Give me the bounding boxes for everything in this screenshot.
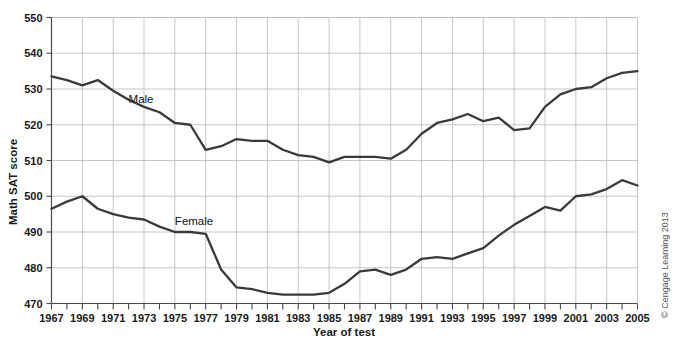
x-axis-tick-label: 1967 (39, 312, 63, 324)
y-axis-tick-label: 550 (24, 12, 42, 24)
x-axis-tick-label: 1983 (286, 312, 310, 324)
x-axis-tick-label: 1975 (163, 312, 187, 324)
math-sat-score-line-chart: 470480490500510520530540550 196719691971… (0, 0, 679, 345)
y-axis-tick-label: 520 (24, 119, 42, 131)
y-axis-tick-label: 540 (24, 47, 42, 59)
x-axis-tick-label: 2001 (564, 312, 588, 324)
x-axis-tick-label: 1979 (224, 312, 248, 324)
x-axis-tick-label: 1987 (348, 312, 372, 324)
y-axis-tick-label: 480 (24, 262, 42, 274)
chart-background (0, 0, 679, 345)
y-axis-tick-label: 530 (24, 83, 42, 95)
x-axis-tick-label: 1993 (440, 312, 464, 324)
x-axis-tick-label: 1981 (255, 312, 279, 324)
x-axis-tick-label: 1991 (409, 312, 433, 324)
x-axis-tick-label: 1977 (193, 312, 217, 324)
y-axis-tick-labels: 470480490500510520530540550 (24, 12, 42, 310)
x-axis-tick-label: 1973 (132, 312, 156, 324)
y-axis-tick-label: 470 (24, 298, 42, 310)
series-label-female: Female (175, 215, 213, 227)
x-axis-tick-label: 1995 (471, 312, 495, 324)
x-axis-tick-label: 1985 (317, 312, 341, 324)
x-axis-tick-label: 1969 (70, 312, 94, 324)
x-axis-tick-label: 1989 (379, 312, 403, 324)
x-axis-tick-label: 1999 (533, 312, 557, 324)
y-axis-tick-label: 490 (24, 226, 42, 238)
x-axis-tick-label: 2005 (625, 312, 649, 324)
x-axis-tick-label: 1997 (502, 312, 526, 324)
x-axis-title: Year of test (313, 326, 375, 338)
series-label-male: Male (129, 93, 154, 105)
x-axis-tick-label: 1971 (101, 312, 125, 324)
x-axis-tick-label: 2003 (594, 312, 618, 324)
y-axis-title: Math SAT score (7, 139, 19, 225)
y-axis-tick-label: 510 (24, 155, 42, 167)
y-axis-tick-label: 500 (24, 190, 42, 202)
copyright-credit: © Cengage Learning 2013 (660, 212, 670, 318)
